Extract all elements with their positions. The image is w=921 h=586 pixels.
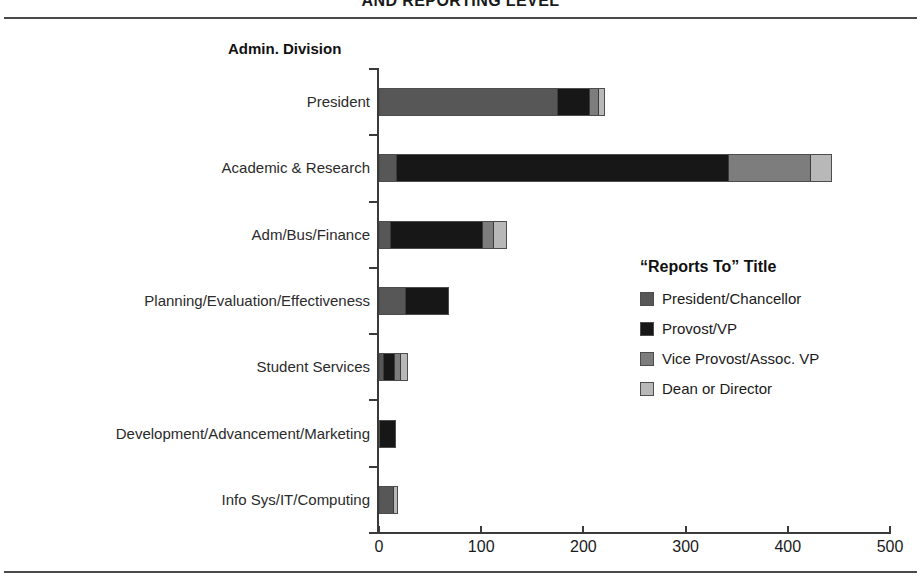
y-axis-category-label: Planning/Evaluation/Effectiveness — [144, 292, 370, 309]
bar-segment — [396, 155, 728, 181]
bar-segment — [380, 487, 393, 513]
x-axis-tick — [787, 526, 789, 534]
bar-segment — [589, 89, 597, 115]
x-axis-tick-label: 500 — [877, 538, 904, 556]
legend: “Reports To” Title President/ChancellorP… — [640, 258, 885, 410]
bar-segment — [482, 222, 493, 248]
y-axis-category-label: Info Sys/IT/Computing — [222, 490, 370, 507]
y-axis-tick — [369, 201, 378, 203]
legend-swatch-icon — [640, 352, 654, 366]
bar-5 — [379, 420, 396, 448]
x-axis-tick-label: 100 — [468, 538, 495, 556]
bar-segment — [380, 89, 557, 115]
x-axis-tick — [480, 526, 482, 534]
y-axis-category-label: Academic & Research — [222, 159, 370, 176]
bar-segment — [405, 288, 449, 314]
legend-item-label: Dean or Director — [662, 380, 772, 397]
bar-segment — [557, 89, 590, 115]
legend-swatch-icon — [640, 322, 654, 336]
page-rule-bottom — [4, 571, 917, 573]
x-axis-tick — [378, 526, 380, 534]
page-rule-top — [4, 17, 917, 19]
bar-segment — [810, 155, 830, 181]
legend-items: President/ChancellorProvost/VPVice Provo… — [640, 290, 885, 397]
legend-item[interactable]: President/Chancellor — [640, 290, 885, 307]
bar-0 — [379, 88, 605, 116]
legend-item[interactable]: Provost/VP — [640, 320, 885, 337]
bar-6 — [379, 486, 398, 514]
bar-segment — [380, 155, 396, 181]
x-axis-tick — [889, 526, 891, 534]
x-axis-tick-label: 0 — [375, 538, 384, 556]
legend-item[interactable]: Dean or Director — [640, 380, 885, 397]
y-axis-category-label: Adm/Bus/Finance — [252, 225, 370, 242]
y-axis-tick — [369, 267, 378, 269]
legend-item[interactable]: Vice Provost/Assoc. VP — [640, 350, 885, 367]
y-axis-category-label: President — [307, 93, 370, 110]
y-axis-title: Admin. Division — [228, 40, 341, 57]
chart-page: AND REPORTING LEVEL Admin. Division Pres… — [0, 0, 921, 586]
legend-swatch-icon — [640, 382, 654, 396]
bar-segment — [493, 222, 505, 248]
bar-1 — [379, 154, 832, 182]
bar-segment — [380, 288, 405, 314]
bar-segment — [383, 354, 394, 380]
bar-4 — [379, 353, 408, 381]
bar-segment — [380, 222, 390, 248]
chart-title: AND REPORTING LEVEL — [0, 0, 921, 10]
x-axis-tick-label: 300 — [672, 538, 699, 556]
bar-3 — [379, 287, 449, 315]
y-axis-tick — [369, 532, 378, 534]
legend-item-label: Provost/VP — [662, 320, 737, 337]
bar-2 — [379, 221, 507, 249]
bar-segment — [380, 421, 395, 447]
x-axis-tick-label: 400 — [774, 538, 801, 556]
y-axis-category-label: Development/Advancement/Marketing — [116, 424, 370, 441]
y-axis-category-label: Student Services — [257, 358, 370, 375]
bar-segment — [728, 155, 810, 181]
x-axis-tick — [582, 526, 584, 534]
legend-item-label: Vice Provost/Assoc. VP — [662, 350, 819, 367]
y-axis-tick — [369, 466, 378, 468]
bar-segment — [390, 222, 482, 248]
legend-item-label: President/Chancellor — [662, 290, 801, 307]
legend-swatch-icon — [640, 292, 654, 306]
y-axis-tick — [369, 134, 378, 136]
bar-segment — [400, 354, 406, 380]
x-axis-tick-label: 200 — [570, 538, 597, 556]
bar-segment — [393, 487, 397, 513]
legend-title: “Reports To” Title — [640, 258, 885, 276]
x-axis-tick — [685, 526, 687, 534]
y-axis-tick — [369, 333, 378, 335]
x-axis-line — [377, 532, 889, 534]
y-axis-tick — [369, 68, 378, 70]
bar-segment — [598, 89, 604, 115]
y-axis-tick — [369, 399, 378, 401]
